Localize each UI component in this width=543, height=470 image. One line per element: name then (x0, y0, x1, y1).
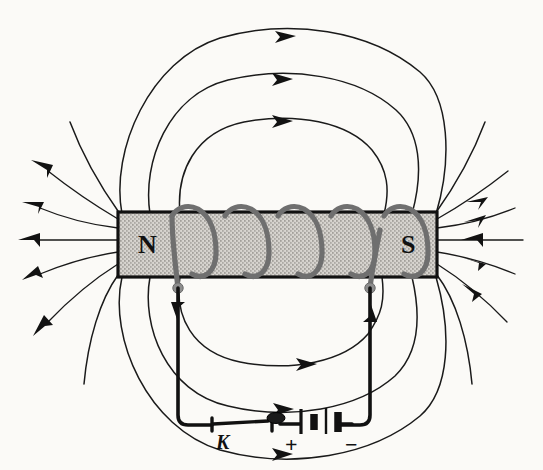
field-line-south-2 (437, 208, 515, 228)
field-arrow-north-1 (31, 160, 53, 178)
field-line-south-4 (437, 252, 515, 274)
field-lines-north (18, 122, 120, 384)
magnetic-field-diagram: N S (0, 0, 543, 470)
battery-positive-label: + (285, 432, 298, 457)
lead-wire-right (340, 288, 370, 425)
current-arrow-left-down (171, 302, 185, 322)
bar-magnet: N S (118, 212, 437, 277)
field-arrow-south-5 (462, 284, 482, 302)
field-line-north-4 (40, 252, 118, 274)
lead-wire-left (178, 288, 212, 425)
field-line-bottom-middle (148, 277, 417, 412)
north-pole-label: N (138, 230, 157, 259)
field-arrow-south-3 (461, 233, 483, 247)
south-pole-label: S (401, 230, 415, 259)
field-lines-bottom (119, 277, 446, 461)
field-arrow-top-inner (272, 115, 293, 128)
field-line-top-inner (179, 118, 387, 214)
field-line-north-2 (40, 208, 118, 228)
battery-symbol: + − (280, 408, 358, 457)
switch-k[interactable]: K (212, 413, 285, 454)
field-line-bottom-outer (119, 277, 446, 459)
field-arrow-north-3 (18, 233, 40, 247)
circuit-leads (171, 288, 377, 425)
figure-canvas: N S (0, 0, 543, 470)
field-arrow-top-outer (275, 31, 296, 43)
field-lines-south (435, 122, 523, 384)
coil-terminals (173, 283, 375, 293)
magnet-body-rect (118, 212, 437, 277)
field-arrow-north-2 (22, 202, 44, 214)
field-line-top-middle (149, 73, 419, 214)
switch-k-label: K (215, 431, 231, 453)
current-arrow-right-up (363, 302, 377, 322)
switch-blade (213, 421, 268, 424)
field-arrow-north-5 (33, 315, 53, 336)
field-arrow-north-4 (22, 266, 43, 280)
battery-negative-label: − (345, 432, 358, 457)
field-arrow-top-middle (272, 73, 293, 86)
field-lines-top (120, 29, 446, 214)
field-line-north-curve-1 (84, 275, 118, 384)
field-line-south-curve-1 (437, 275, 472, 384)
switch-knob[interactable] (267, 413, 285, 424)
field-line-bottom-inner (179, 277, 383, 366)
field-line-north-curve-2 (70, 122, 120, 214)
